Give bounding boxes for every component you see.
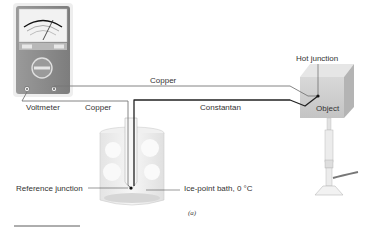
wires xyxy=(22,86,318,188)
bunsen-burner xyxy=(315,118,358,195)
hot-junction-label: Hot junction xyxy=(296,55,338,63)
reference-junction-dot xyxy=(129,186,132,189)
voltmeter xyxy=(13,3,73,97)
voltmeter-label: Voltmeter xyxy=(26,104,60,112)
ice-bath-beaker xyxy=(100,118,164,205)
object-label: Object xyxy=(316,105,339,113)
figure-caption: (a) xyxy=(188,209,196,217)
ice-bath-label: Ice-point bath, 0 °C xyxy=(184,185,253,193)
copper-top-label: Copper xyxy=(150,77,176,85)
thermocouple-diagram: Voltmeter Copper Copper Constantan Hot j… xyxy=(0,0,385,231)
reference-junction-label: Reference junction xyxy=(16,185,83,193)
constantan-label: Constantan xyxy=(200,104,241,112)
copper-left-label: Copper xyxy=(85,104,111,112)
